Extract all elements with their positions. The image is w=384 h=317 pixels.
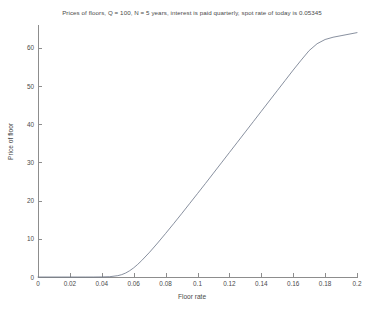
y-tick-label: 20	[8, 197, 34, 204]
y-tick-label: 10	[8, 235, 34, 242]
figure-canvas: Prices of floors, Q = 100, N = 5 years, …	[0, 0, 384, 317]
y-tick-label: 60	[8, 44, 34, 51]
floor-price-curve	[38, 25, 357, 277]
y-tick-label: 50	[8, 83, 34, 90]
x-tick-mark	[357, 273, 358, 277]
x-tick-label: 0.2	[337, 280, 377, 288]
y-axis-label: Price of floor	[6, 102, 15, 182]
chart-title: Prices of floors, Q = 100, N = 5 years, …	[0, 9, 384, 17]
x-axis-label: Floor rate	[0, 292, 384, 301]
